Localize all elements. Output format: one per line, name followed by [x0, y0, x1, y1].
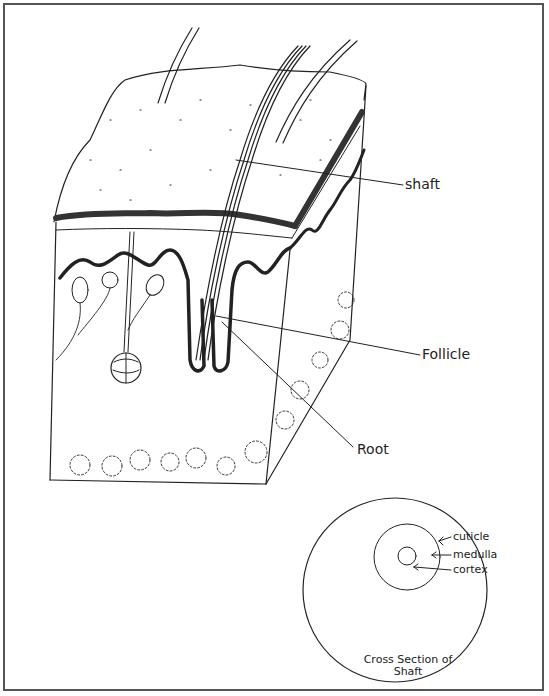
- hair-strand-left: [158, 28, 199, 103]
- label-shaft: shaft: [405, 176, 440, 192]
- label-cuticle: cuticle: [453, 530, 489, 543]
- root-leader-line: [222, 322, 353, 447]
- label-root: Root: [357, 441, 389, 457]
- sebaceous-gland-1: [72, 277, 88, 303]
- label-follicle: Follicle: [422, 346, 470, 362]
- medulla-arrow: [432, 552, 451, 558]
- cortex-arrow: [414, 564, 451, 570]
- dermal-papillae-line: [60, 248, 290, 371]
- hair-strand-right: [276, 40, 357, 143]
- follicle-leader-line: [216, 316, 420, 355]
- cuticle-arrow: [439, 537, 451, 545]
- epidermis-band: [56, 213, 295, 226]
- cross-section-cuticle: [374, 524, 440, 590]
- surface-dots: [90, 100, 331, 200]
- label-cortex: cortex: [453, 563, 488, 576]
- skin-surface-outline: [54, 65, 366, 222]
- sebaceous-gland-2: [102, 272, 118, 288]
- cross-section-medulla: [398, 547, 416, 565]
- block-left-edge: [50, 222, 56, 480]
- caption-line-2: Shaft: [338, 666, 478, 678]
- label-medulla: medulla: [453, 548, 497, 561]
- block-bottom-edge: [50, 480, 266, 484]
- sebaceous-gland-3: [143, 271, 168, 298]
- cross-section-caption: Cross Section of Shaft: [338, 654, 478, 678]
- block-back-right-edge: [266, 86, 366, 484]
